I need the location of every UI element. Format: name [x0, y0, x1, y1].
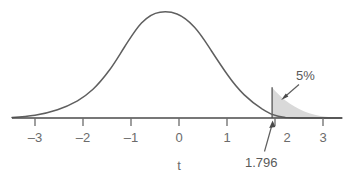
tick-label-3: 3	[319, 130, 326, 145]
tick-label-1: 1	[223, 130, 230, 145]
tick-label-neg2: –2	[76, 130, 90, 145]
tick-label-2: 2	[283, 130, 290, 145]
tick-label-0: 0	[175, 130, 182, 145]
tick-label-neg3: –3	[28, 130, 42, 145]
chart-canvas: –3 –2 –1 0 1 2 3 t 5% 1.796	[0, 0, 353, 185]
x-axis-title: t	[177, 158, 181, 173]
x-axis-ticks	[35, 118, 323, 126]
density-curve	[12, 12, 342, 118]
tick-label-neg1: –1	[124, 130, 138, 145]
t-distribution-chart: –3 –2 –1 0 1 2 3 t 5% 1.796	[0, 0, 353, 185]
shaded-tail-region	[272, 88, 342, 118]
crit-leader-line	[265, 125, 273, 152]
critical-value-label: 1.796	[245, 155, 278, 170]
pct-annotation-label: 5%	[296, 68, 315, 83]
